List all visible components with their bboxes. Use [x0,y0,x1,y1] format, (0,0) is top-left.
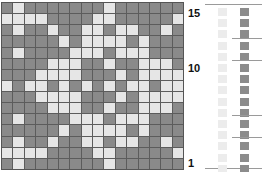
chart-cell [2,148,12,158]
chart-cell [173,103,183,113]
chart-cell [127,125,137,135]
chart-cell [13,59,23,69]
chart-cell [36,148,46,158]
chart-cell [25,92,35,102]
chart-cell [25,3,35,13]
chart-cell [161,159,171,169]
chart-cell [116,81,126,91]
chart-cell [13,70,23,80]
chart-cell [2,81,12,91]
chart-cell [127,159,137,169]
chart-cell [36,125,46,135]
chart-cell [139,148,149,158]
chart-cell [13,14,23,24]
chart-cell [25,148,35,158]
chart-cell [25,25,35,35]
chart-cell [161,137,171,147]
chart-cell [48,81,58,91]
chart-cell [93,148,103,158]
chart-cell [127,137,137,147]
chart-cell [93,125,103,135]
chart-cell [59,92,69,102]
chart-cell [13,159,23,169]
chart-cell [150,81,160,91]
chart-cell [150,137,160,147]
chart-cell [25,114,35,124]
chart-cell [82,159,92,169]
chart-cell [25,14,35,24]
chart-cell [70,92,80,102]
chart-cell [70,148,80,158]
chart-cell [59,103,69,113]
chart-cell [104,159,114,169]
chart-cell [93,137,103,147]
chart-cell [70,114,80,124]
legend-light-square [218,42,227,50]
chart-cell [104,48,114,58]
chart-cell [59,25,69,35]
chart-cell [25,70,35,80]
chart-cell [161,25,171,35]
chart-cell [139,103,149,113]
chart-cell [104,14,114,24]
chart-cell [70,125,80,135]
legend-dark-square [240,120,249,128]
chart-cell [93,70,103,80]
chart-cell [104,92,114,102]
chart-cell [59,148,69,158]
chart-cell [2,25,12,35]
chart-cell [116,59,126,69]
chart-cell [2,36,12,46]
chart-cell [116,14,126,24]
legend-light-square [218,109,227,117]
chart-cell [82,81,92,91]
chart-cell [173,48,183,58]
chart-cell [161,81,171,91]
chart-cell [82,59,92,69]
chart-cell [13,114,23,124]
legend-light-square [218,86,227,94]
chart-cell [13,48,23,58]
legend-light-square [218,131,227,139]
chart-cell [25,103,35,113]
chart-cell [59,59,69,69]
chart-cell [59,159,69,169]
legend-light-square [218,75,227,83]
chart-cell [2,114,12,124]
chart-cell [127,103,137,113]
legend-dark-square [240,154,249,162]
chart-cell [13,125,23,135]
chart-cell [150,3,160,13]
legend-light-square [218,120,227,128]
chart-cell [173,14,183,24]
chart-cell [59,3,69,13]
chart-cell [82,14,92,24]
chart-cell [13,36,23,46]
chart-cell [70,137,80,147]
chart-cell [13,25,23,35]
chart-cell [116,25,126,35]
legend-divider-line [232,38,262,39]
legend-light-square [218,19,227,27]
chart-cell [139,14,149,24]
chart-cell [59,81,69,91]
legend-divider-line [232,60,262,61]
legend-light-square [218,53,227,61]
chart-cell [70,25,80,35]
chart-cell [36,3,46,13]
chart-cell [116,114,126,124]
chart-cell [150,59,160,69]
chart-cell [127,36,137,46]
chart-cell [13,148,23,158]
chart-cell [70,48,80,58]
chart-cell [127,14,137,24]
chart-cell [13,92,23,102]
chart-cell [48,3,58,13]
legend-light-square [218,98,227,106]
chart-cell [2,3,12,13]
legend-bottom-line [205,168,262,169]
chart-cell [93,14,103,24]
legend-light-square [218,64,227,72]
chart-cell [25,137,35,147]
chart-cell [48,14,58,24]
